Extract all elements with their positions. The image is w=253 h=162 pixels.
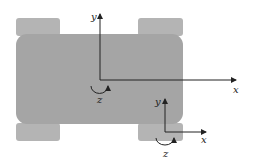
- wheel-y-label: y: [154, 96, 161, 107]
- body-z-rotation-arrow: [91, 86, 108, 93]
- wheel-frame: y x z: [154, 96, 207, 159]
- vehicle-diagram: y x z y x z: [0, 0, 253, 162]
- wheel-x-label: x: [201, 134, 207, 145]
- body-frame: y x z: [90, 11, 239, 105]
- coordinate-frames-overlay: y x z y x z: [0, 0, 253, 162]
- body-y-label: y: [90, 11, 97, 22]
- wheel-z-label: z: [162, 148, 169, 159]
- body-z-label: z: [96, 94, 103, 105]
- wheel-z-rotation-arrow: [156, 138, 174, 145]
- body-x-label: x: [233, 84, 239, 95]
